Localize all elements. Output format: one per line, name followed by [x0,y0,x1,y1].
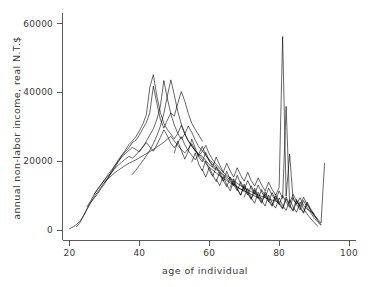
x-tick-label-40: 40 [133,248,145,258]
series-cohort-4 [94,130,244,194]
series-cohort-1 [69,86,202,229]
series-cohort-3 [87,81,230,207]
chart-figure: 0200004000060000 20406080100 age of indi… [0,0,374,287]
income-vs-age-line-chart: 0200004000060000 20406080100 age of indi… [0,0,374,287]
x-axis-title: age of individual [162,265,248,276]
y-axis-ticks [57,23,63,230]
data-series-group [69,36,324,228]
x-axis-tick-labels: 20406080100 [64,248,358,258]
x-axis-group: 20406080100 [63,241,358,259]
series-cohort-11 [230,179,321,225]
y-tick-label-40000: 40000 [23,87,53,97]
x-axis-ticks [69,241,349,247]
y-tick-label-60000: 60000 [23,19,53,29]
series-cohort-10 [216,163,324,223]
y-axis-title: annual non-labor income, real N.T.$ [11,36,22,220]
x-tick-label-60: 60 [203,248,215,258]
x-tick-label-20: 20 [64,248,76,258]
y-tick-label-0: 0 [47,225,53,235]
y-tick-label-20000: 20000 [23,156,53,166]
y-axis-tick-labels: 0200004000060000 [23,19,53,236]
x-tick-label-80: 80 [273,248,285,258]
series-cohort-7 [174,36,314,213]
y-axis-group: 0200004000060000 [23,13,62,240]
series-cohort-6 [132,80,279,202]
x-tick-label-100: 100 [340,248,358,258]
